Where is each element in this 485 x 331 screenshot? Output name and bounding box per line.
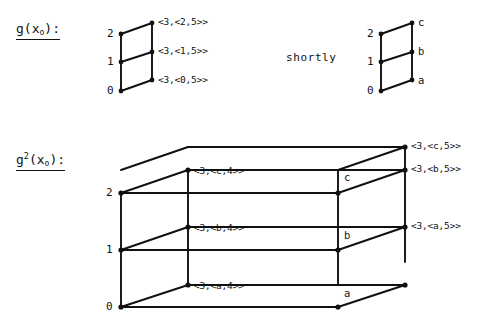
- connector-word-shortly: shortly: [286, 52, 337, 63]
- top-left-edge-label-2: <3,<2,5>>: [158, 17, 208, 27]
- top-right-parallelogram: [381, 23, 412, 91]
- g2-open: (x: [29, 152, 45, 167]
- bottom-right-label-b5: <3,<b,5>>: [411, 164, 461, 174]
- top-left-edge-label-1: <3,<1,5>>: [158, 46, 208, 56]
- bottom-box-wireframe: [121, 147, 405, 307]
- bottom-inner-node-b: b: [344, 230, 350, 241]
- top-right-node-b: b: [418, 46, 424, 57]
- top-right-axis-1: 1: [367, 56, 374, 67]
- bottom-axis-0: 0: [106, 301, 113, 312]
- bottom-front-label-b4: <3,<b,4>>: [194, 223, 244, 233]
- bottom-front-label-c4: <3,<c,4>>: [194, 166, 244, 176]
- bottom-front-label-a4: <3,<a,4>>: [194, 281, 244, 291]
- top-right-axis-0: 0: [367, 85, 374, 96]
- bottom-right-label-a5: <3,<a,5>>: [411, 221, 461, 231]
- bottom-right-label-c5: <3,<c,5>>: [411, 141, 461, 151]
- g2-close: ):: [49, 152, 65, 167]
- bottom-axis-1: 1: [106, 244, 113, 255]
- top-left-edge-label-0: <3,<0,5>>: [158, 75, 208, 85]
- g2-base: g: [16, 152, 24, 167]
- bottom-inner-node-c: c: [344, 172, 350, 183]
- top-left-axis-1: 1: [107, 56, 114, 67]
- bottom-axis-2: 2: [106, 187, 113, 198]
- label-g2-of-x0: g2(xo):: [16, 152, 65, 171]
- top-right-node-c: c: [418, 17, 424, 28]
- top-left-axis-2: 2: [107, 28, 114, 39]
- top-right-node-a: a: [418, 75, 424, 86]
- bottom-box-top-cap: [121, 147, 405, 170]
- figure-sheet: g(xo):: [0, 0, 485, 331]
- bottom-inner-node-a: a: [344, 288, 350, 299]
- top-left-parallelogram: [121, 23, 152, 91]
- top-right-axis-2: 2: [367, 28, 374, 39]
- top-left-axis-0: 0: [107, 85, 114, 96]
